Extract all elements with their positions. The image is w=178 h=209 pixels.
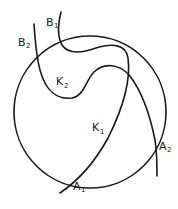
svg-text:1: 1 — [54, 22, 58, 30]
svg-text:K: K — [56, 75, 64, 88]
svg-text:1: 1 — [81, 186, 85, 194]
svg-text:A: A — [159, 140, 167, 153]
svg-text:2: 2 — [167, 146, 171, 154]
svg-text:A: A — [73, 180, 81, 193]
label-k2: K 2 — [56, 75, 68, 90]
svg-text:B: B — [46, 16, 54, 29]
svg-text:2: 2 — [64, 82, 68, 90]
svg-text:K: K — [92, 121, 100, 134]
diagram-canvas: B 1 B 2 K 2 K 1 A 2 A 1 — [0, 0, 178, 209]
svg-text:B: B — [18, 36, 26, 49]
label-a2: A 2 — [159, 140, 171, 154]
svg-text:1: 1 — [100, 128, 104, 136]
label-b1: B 1 — [46, 16, 58, 30]
label-k1: K 1 — [92, 121, 104, 136]
svg-text:2: 2 — [26, 42, 30, 50]
label-b2: B 2 — [18, 36, 30, 50]
label-a1: A 1 — [73, 180, 85, 194]
